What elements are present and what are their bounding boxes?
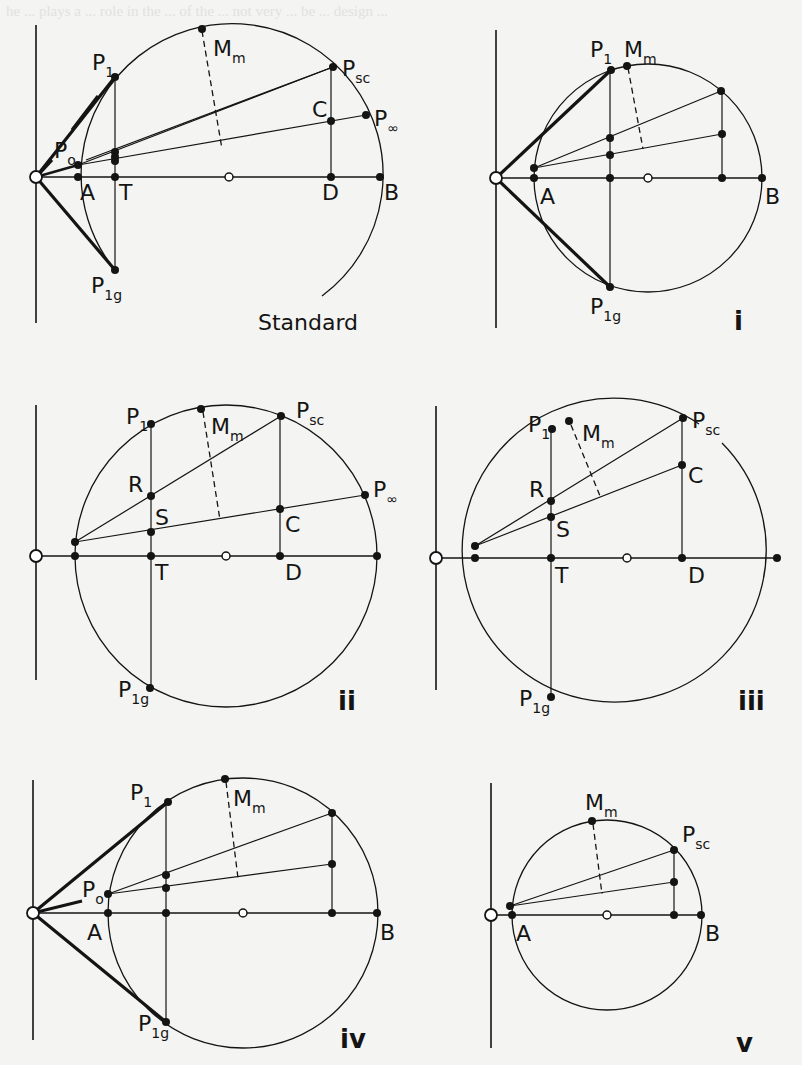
circle-center-marker — [225, 173, 233, 181]
point-c — [678, 461, 686, 469]
point-mm — [623, 62, 631, 70]
point-d — [328, 909, 336, 917]
point-label: Mm — [213, 36, 246, 66]
point-label: A — [516, 921, 531, 946]
construction-line — [510, 850, 674, 906]
point-label: B — [705, 921, 720, 946]
point-label: P1 — [126, 404, 148, 434]
diagram-caption: iii — [738, 686, 765, 716]
point-label: C — [285, 512, 300, 537]
construction-line — [75, 495, 365, 542]
point-p1g — [606, 283, 614, 291]
circle-center-marker — [222, 552, 230, 560]
max-output-dashed-line — [593, 824, 602, 894]
point-label: P1g — [519, 686, 550, 716]
origin-open-circle — [27, 907, 39, 919]
point-mm — [221, 775, 229, 783]
origin-open-circle — [490, 172, 502, 184]
point-label: T — [118, 180, 133, 205]
point-label: D — [285, 560, 302, 585]
point-t — [162, 909, 170, 917]
point-a — [530, 174, 538, 182]
point-label: Po — [54, 138, 76, 168]
point-b — [773, 554, 781, 562]
point-label: P1g — [118, 677, 149, 707]
point-psc — [329, 63, 337, 71]
point-a — [71, 552, 79, 560]
origin-open-circle — [30, 550, 42, 562]
point-a — [104, 909, 112, 917]
construction-line — [475, 465, 682, 546]
point-b — [373, 552, 381, 560]
circle-center-marker — [239, 909, 247, 917]
point-label: P1 — [590, 37, 612, 67]
construction-line — [534, 134, 722, 168]
point-label: Psc — [682, 822, 710, 852]
point-d — [276, 552, 284, 560]
diagram-caption: Standard — [258, 310, 358, 335]
diagram-caption: i — [734, 306, 743, 336]
point-pinf — [361, 491, 369, 499]
point-label: Psc — [342, 56, 370, 86]
origin-open-circle — [30, 171, 42, 183]
point-psc — [277, 412, 285, 420]
point-b — [376, 173, 384, 181]
point-s — [147, 528, 155, 536]
point-label: S — [155, 505, 169, 530]
construction-line — [75, 416, 281, 542]
point-label: R — [529, 477, 544, 502]
point-marker — [111, 157, 119, 165]
point-psc — [670, 846, 678, 854]
point-r — [547, 497, 555, 505]
point-label: B — [765, 184, 780, 209]
point-label: Mm — [585, 790, 618, 820]
point-label: P1g — [590, 294, 621, 324]
point-p0 — [71, 538, 79, 546]
point-p0 — [530, 164, 538, 172]
point-mm — [565, 417, 573, 425]
point-label: P∞ — [373, 477, 398, 507]
point-label: A — [80, 180, 95, 205]
point-mm — [197, 405, 205, 413]
construction-line — [86, 67, 333, 160]
point-t — [147, 552, 155, 560]
construction-line — [108, 864, 332, 894]
point-label: A — [540, 184, 555, 209]
diagram-caption: ii — [338, 686, 356, 716]
point-d — [670, 911, 678, 919]
point-label: R — [128, 472, 143, 497]
diagram-iv: P1MmPoABP1giv — [27, 775, 395, 1054]
point-label: P1 — [92, 50, 114, 80]
point-t — [606, 174, 614, 182]
point-p0 — [471, 542, 479, 550]
point-label: D — [688, 563, 705, 588]
point-psc — [328, 809, 336, 817]
point-p0 — [104, 890, 112, 898]
point-label: P1g — [138, 1011, 169, 1041]
diagram-caption: iv — [340, 1024, 366, 1054]
point-r — [162, 871, 170, 879]
point-label: T — [154, 560, 169, 585]
point-label: C — [688, 463, 703, 488]
point-label: D — [322, 180, 339, 205]
diagram-i: P1MmABP1gi — [490, 30, 780, 336]
diagram-caption: v — [736, 1028, 753, 1058]
point-p1 — [607, 66, 615, 74]
point-pinf — [362, 111, 370, 119]
point-p0 — [506, 902, 514, 910]
point-s — [606, 151, 614, 159]
point-label: B — [380, 920, 395, 945]
point-t — [111, 173, 119, 181]
diagram-standard: P1MmPscCP∞PoATDBP1gStandard — [30, 24, 399, 335]
point-b — [373, 909, 381, 917]
point-b — [758, 174, 766, 182]
point-psc — [717, 87, 725, 95]
point-label: P1 — [528, 412, 550, 442]
point-label: B — [384, 180, 399, 205]
point-mm — [588, 817, 596, 825]
construction-line — [510, 882, 674, 906]
point-d — [678, 554, 686, 562]
max-output-dashed-line — [628, 68, 643, 149]
point-r — [606, 134, 614, 142]
point-psc — [679, 414, 687, 422]
